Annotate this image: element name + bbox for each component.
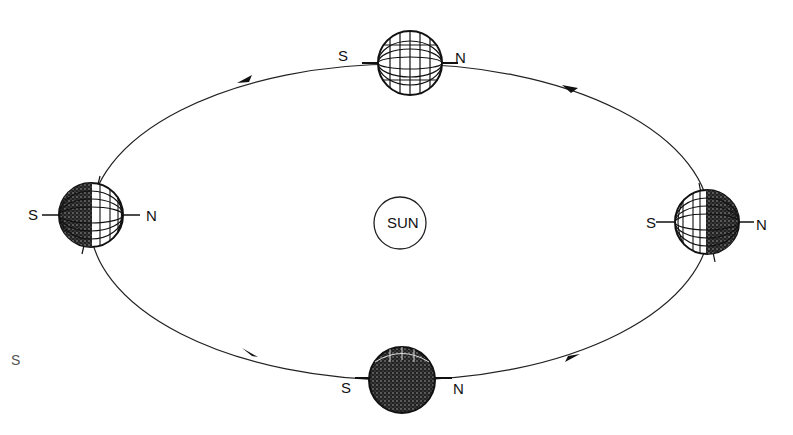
south-pole-label-bottom: S — [341, 380, 351, 395]
south-pole-label-top: S — [338, 48, 348, 63]
orbit-diagram: SUN S N S N S N S N S — [0, 0, 793, 435]
north-pole-label-top: N — [455, 50, 466, 65]
earth-top-icon — [362, 28, 458, 96]
earth-left-icon — [42, 176, 140, 254]
orbit-arrow-icon — [242, 348, 258, 357]
north-pole-label-bottom: N — [453, 381, 464, 396]
cropped-edge-text: S — [11, 352, 20, 368]
south-pole-label-left: S — [28, 207, 38, 222]
earth-right-icon — [656, 183, 754, 262]
orbit-arrow-icon — [237, 75, 252, 83]
earth-bottom-icon — [355, 347, 452, 413]
north-pole-label-left: N — [146, 208, 157, 223]
north-pole-label-right: N — [756, 217, 767, 232]
sun-label: SUN — [387, 215, 419, 230]
south-pole-label-right: S — [646, 215, 656, 230]
